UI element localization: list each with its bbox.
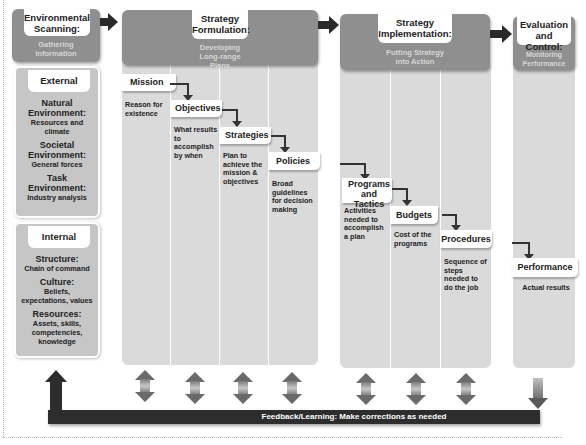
step-procedures: Procedures (440, 230, 492, 248)
step-procedures-desc: Sequence of steps needed to do the job (444, 258, 488, 292)
step-programs-tactics-desc: Activities needed to accomplish a plan (344, 207, 388, 241)
stage-evaluation-control: Evaluation and Control: Monitoring Perfo… (513, 16, 575, 70)
step-strategies-desc: Plan to achieve the mission & objectives (223, 152, 269, 186)
stage-title: Strategy Implementation: (378, 14, 452, 43)
double-arrow-icon (456, 373, 476, 405)
task-environment-title: Task Environment: (18, 173, 96, 193)
stage-subtitle: Developing Long-range Plans (122, 43, 318, 70)
flow-arrow-icon (392, 188, 408, 200)
step-objectives: Objectives (170, 100, 222, 117)
resources-desc: Assets, skills, competencies, knowledge (18, 319, 96, 346)
step-objectives-desc: What results to accomplish by when (174, 126, 218, 160)
stage-environmental-scanning: Environmental Scanning: Gathering Inform… (12, 9, 100, 62)
stage-title: Environmental Scanning: (24, 9, 90, 36)
flow-arrow-icon (512, 242, 530, 254)
step-budgets: Budgets (390, 206, 438, 224)
down-arrow-head-icon (528, 398, 548, 409)
double-arrow-icon (185, 372, 205, 404)
flow-arrow-icon (340, 163, 366, 174)
internal-factors-box: Internal Structure: Chain of command Cul… (14, 222, 100, 358)
stage-subtitle: Monitoring Performance (513, 50, 575, 68)
flow-arrow-icon (271, 135, 286, 147)
step-mission: Mission (122, 74, 176, 91)
resources-title: Resources: (18, 309, 96, 319)
stage-title: Evaluation and Control: (517, 16, 571, 45)
culture-desc: Beliefs, expectations, values (18, 287, 96, 305)
stage-subtitle: Putting Strategy into Action (340, 48, 490, 66)
dotted-border-bottom (3, 437, 563, 438)
task-environment-desc: Industry analysis (18, 193, 96, 202)
structure-desc: Chain of command (18, 264, 96, 273)
feedback-up-arrow-head-icon (45, 370, 67, 382)
step-performance: Performance (512, 258, 578, 277)
stage-strategy-formulation: Strategy Formulation: Developing Long-ra… (122, 10, 318, 65)
natural-environment-title: Natural Environment: (18, 98, 96, 118)
stage-title: Strategy Formulation: (192, 10, 248, 39)
step-budgets-desc: Cost of the programs (394, 231, 438, 248)
step-performance-desc: Actual results (516, 284, 576, 293)
feedback-bar: Feedback/Learning: Make corrections as n… (48, 410, 540, 424)
flow-arrow-icon (170, 83, 189, 95)
internal-title: Internal (28, 226, 90, 248)
step-strategies: Strategies (219, 127, 271, 144)
double-arrow-icon (282, 372, 302, 404)
culture-title: Culture: (18, 277, 96, 287)
step-programs-tactics: Programs and Tactics (342, 178, 392, 203)
societal-environment-desc: General forces (18, 160, 96, 169)
natural-environment-desc: Resources and climate (18, 118, 96, 136)
step-policies: Policies (268, 152, 320, 170)
dotted-border-left (3, 0, 4, 437)
feedback-label: Feedback/Learning: Make corrections as n… (48, 410, 540, 424)
step-policies-desc: Broad guidelines for decision making (272, 180, 316, 214)
double-arrow-icon (135, 370, 155, 402)
column-strategies (219, 60, 269, 365)
stage-subtitle: Gathering Information (12, 40, 100, 58)
step-mission-desc: Reason for existence (125, 101, 169, 118)
double-arrow-icon (233, 372, 253, 404)
external-title: External (28, 70, 90, 92)
double-arrow-icon (406, 373, 426, 405)
stage-strategy-implementation: Strategy Implementation: Putting Strateg… (340, 14, 490, 70)
external-factors-box: External Natural Environment: Resources … (14, 66, 100, 218)
structure-title: Structure: (18, 254, 96, 264)
column-performance (513, 66, 575, 368)
flow-arrow-icon (442, 214, 457, 225)
down-arrow-icon (533, 378, 543, 400)
societal-environment-title: Societal Environment: (18, 140, 96, 160)
flow-arrow-icon (222, 109, 238, 121)
double-arrow-icon (356, 373, 376, 405)
